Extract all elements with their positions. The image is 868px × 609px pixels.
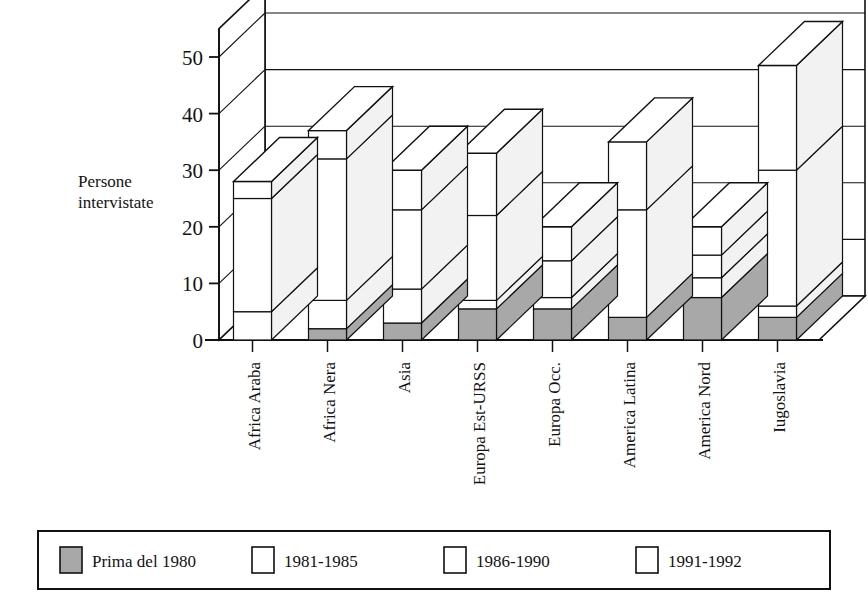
x-axis-category-label: America Latina — [620, 362, 639, 469]
legend-swatch — [60, 547, 82, 573]
y-axis-tick-label: 50 — [182, 46, 203, 70]
y-axis-tick-label: 10 — [182, 272, 203, 296]
legend-label: 1981-1985 — [284, 552, 358, 571]
bar-segment-front — [234, 312, 272, 340]
bar-segment-front — [759, 65, 797, 170]
x-axis-category-label: Europa Occ. — [545, 362, 564, 447]
legend-swatch — [252, 547, 274, 573]
bar-segment-front — [459, 300, 497, 308]
y-axis-tick-label: 40 — [182, 103, 203, 127]
bar-group — [309, 87, 393, 340]
legend-swatch — [636, 547, 658, 573]
bar-segment-front — [759, 317, 797, 340]
x-axis-category-label: Iugoslavia — [770, 362, 789, 433]
legend-label: 1991-1992 — [668, 552, 742, 571]
bar-segment-front — [609, 317, 647, 340]
x-axis-category-label: Africa Araba — [245, 362, 264, 451]
x-axis-category-label: Asia — [395, 362, 414, 394]
chart-category-labels: IugoslaviaAmerica NordAmerica LatinaEuro… — [245, 362, 789, 486]
bar-segment-front — [759, 306, 797, 317]
bar-segment-front — [309, 300, 347, 328]
bar-group — [384, 126, 468, 340]
chart-canvas: 01020304050IugoslaviaAmerica NordAmerica… — [0, 0, 868, 609]
y-axis-tick-label: 0 — [193, 329, 204, 353]
y-axis-tick-label: 20 — [182, 216, 203, 240]
bar-segment-front — [534, 309, 572, 340]
x-axis-category-label: Africa Nera — [320, 362, 339, 443]
bar-segment-front — [234, 199, 272, 312]
y-axis-tick-label: 30 — [182, 159, 203, 183]
bar-group — [609, 98, 693, 340]
chart-figure: Persone intervistate 01020304050Iugoslav… — [0, 0, 868, 609]
bar-segment-front — [384, 323, 422, 340]
x-axis-category-label: Europa Est-URSS — [470, 362, 489, 485]
bar-segment-front — [309, 329, 347, 340]
bar-group — [459, 109, 543, 340]
legend-swatch — [444, 547, 466, 573]
legend-label: Prima del 1980 — [92, 552, 196, 571]
bar-segment-front — [234, 182, 272, 199]
legend-label: 1986-1990 — [476, 552, 550, 571]
bar-segment-front — [684, 298, 722, 340]
x-axis-category-label: America Nord — [695, 362, 714, 460]
bar-segment-front — [459, 309, 497, 340]
bar-group — [759, 21, 843, 340]
chart-legend: Prima del 19801981-19851986-19901991-199… — [38, 531, 830, 589]
